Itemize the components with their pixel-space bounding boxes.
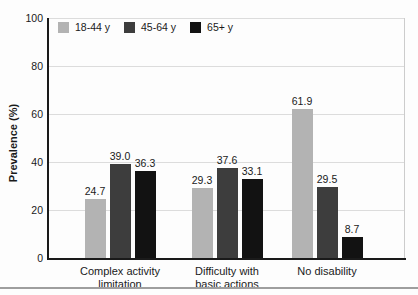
legend-item-2: 45-64 y: [124, 21, 176, 33]
bar-65+y-group1: [135, 171, 156, 258]
y-tick-label-80: 80: [7, 60, 43, 72]
legend-swatch-icon: [124, 22, 135, 33]
legend-item-3: 65+ y: [190, 21, 233, 33]
bar-value-label: 33.1: [230, 165, 274, 177]
gridline-80: [49, 66, 404, 67]
y-tick-label-40: 40: [7, 156, 43, 168]
legend: 18-44 y45-64 y65+ y: [58, 21, 233, 33]
legend-swatch-icon: [58, 22, 69, 33]
bar-value-label: 29.5: [305, 173, 349, 185]
bar-65+y-group3: [342, 237, 363, 258]
plot-frame-right: [404, 18, 405, 258]
y-axis-line: [47, 18, 49, 260]
legend-label: 45-64 y: [141, 21, 176, 33]
bar-65+y-group2: [242, 179, 263, 258]
bar-value-label: 61.9: [280, 95, 324, 107]
bar-18-44y-group1: [85, 199, 106, 258]
legend-swatch-icon: [190, 22, 201, 33]
bar-18-44y-group2: [192, 188, 213, 258]
bar-value-label: 36.3: [123, 157, 167, 169]
bottom-rule: [0, 287, 418, 289]
gridline-100: [49, 18, 404, 19]
figure: Prevalence (%) 02040608010024.739.036.3C…: [0, 0, 418, 295]
y-tick-label-60: 60: [7, 108, 43, 120]
bar-value-label: 8.7: [330, 223, 374, 235]
legend-label: 18-44 y: [75, 21, 110, 33]
category-label-3: No disability: [262, 265, 392, 278]
x-axis-line: [47, 258, 406, 260]
legend-item-1: 18-44 y: [58, 21, 110, 33]
y-tick-label-20: 20: [7, 204, 43, 216]
gridline-60: [49, 114, 404, 115]
y-tick-label-0: 0: [7, 252, 43, 264]
bar-45-64y-group1: [110, 164, 131, 258]
y-tick-label-100: 100: [7, 12, 43, 24]
legend-label: 65+ y: [207, 21, 233, 33]
bar-45-64y-group2: [217, 168, 238, 258]
